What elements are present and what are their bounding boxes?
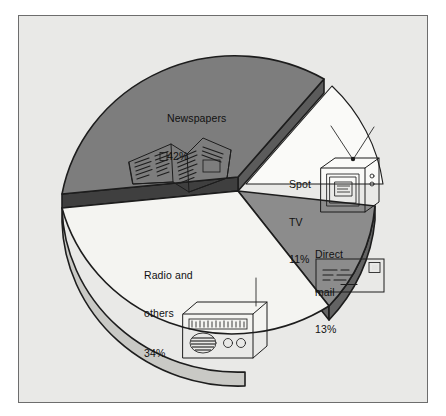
chart-plate: .ol{stroke:#1d1d1d;stroke-width:1.6;stro… bbox=[18, 15, 428, 403]
figure-page: .ol{stroke:#1d1d1d;stroke-width:1.6;stro… bbox=[0, 0, 446, 416]
pie-chart-svg: .ol{stroke:#1d1d1d;stroke-width:1.6;stro… bbox=[19, 16, 427, 402]
